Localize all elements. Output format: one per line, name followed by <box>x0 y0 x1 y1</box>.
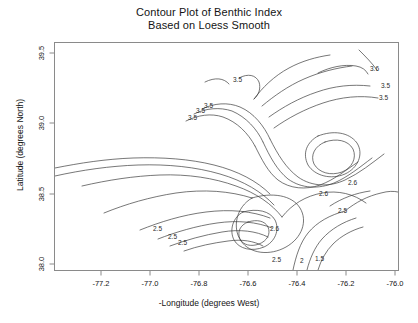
x-tick-label: -76.4 <box>288 279 305 288</box>
y-tick-label: 39.5 <box>37 46 46 61</box>
y-tick-label: 38.5 <box>37 187 46 202</box>
contour-plot-canvas: -77.2 -77.0 -76.8 -76.6 -76.4 -76.2 -76.… <box>0 0 418 323</box>
x-tick-label: -76.2 <box>337 279 354 288</box>
contour-label: 2.6 <box>319 190 328 197</box>
x-tick-label: -76.6 <box>239 279 256 288</box>
y-axis-ticks <box>50 53 55 264</box>
contour-label: 2.6 <box>348 179 357 186</box>
contour-label: 3.5 <box>233 76 242 83</box>
contour-label: 2.5 <box>168 233 177 240</box>
contour-label: 3.5 <box>188 114 197 121</box>
x-tick-label: -77.2 <box>92 279 109 288</box>
y-tick-label: 39.0 <box>37 116 46 131</box>
contour-label: 1.5 <box>315 255 324 262</box>
y-tick-labels: 38.0 38.5 39.0 39.5 <box>37 46 46 272</box>
contour-label: 2.5 <box>153 225 162 232</box>
contour-label: 2.6 <box>270 225 279 232</box>
contour-label: 2 <box>300 257 304 264</box>
x-tick-label: -77.0 <box>141 279 158 288</box>
contour-label: 3.5 <box>204 102 213 109</box>
plot-frame <box>55 43 399 271</box>
x-tick-label: -76.8 <box>190 279 207 288</box>
x-axis-ticks <box>101 271 395 276</box>
contour-label: 2.5 <box>272 256 281 263</box>
contour-label: 2.5 <box>338 207 347 214</box>
contour-lines <box>55 50 398 270</box>
y-axis-title: Latitude (degrees North) <box>15 65 25 225</box>
x-axis-title: -Longitude (degrees West) <box>0 298 418 308</box>
contour-label: 3.5 <box>379 94 388 101</box>
contour-plot-figure: Contour Plot of Benthic Index Based on L… <box>0 0 418 323</box>
x-tick-label: -76.0 <box>386 279 403 288</box>
contour-label: 3.5 <box>381 82 390 89</box>
y-tick-label: 38.0 <box>37 257 46 272</box>
contour-label: 3.6 <box>370 65 379 72</box>
x-tick-labels: -77.2 -77.0 -76.8 -76.6 -76.4 -76.2 -76.… <box>92 279 403 288</box>
contour-label: 2.5 <box>178 239 187 246</box>
